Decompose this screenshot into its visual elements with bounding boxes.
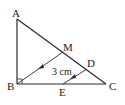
parallel-arrow-icon	[38, 64, 44, 69]
label-B: B	[7, 80, 14, 92]
triangle-diagram: A B C M D E 3 cm	[0, 0, 125, 105]
label-D: D	[87, 57, 95, 69]
label-C: C	[109, 80, 116, 92]
label-A: A	[12, 7, 20, 19]
label-M: M	[63, 41, 73, 53]
label-E: E	[59, 86, 66, 98]
measurement-label: 3 cm	[52, 66, 72, 77]
